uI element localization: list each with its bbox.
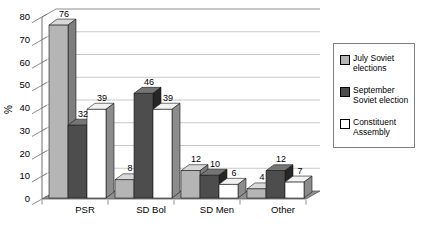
y-axis-tick-label: 50 xyxy=(19,79,30,90)
bar-september-other-front xyxy=(266,171,285,198)
bar-july-other-front xyxy=(247,189,266,198)
bar-july-sd-bol-front xyxy=(115,180,134,198)
category-label: PSR xyxy=(75,204,95,215)
category-label: SD Bol xyxy=(136,204,166,215)
value-label: 32 xyxy=(78,109,88,119)
value-label: 39 xyxy=(97,93,107,103)
bar-september-psr-front xyxy=(68,125,87,198)
legend-item-1: September Soviet election xyxy=(340,86,411,105)
y-axis-tick-label: 30 xyxy=(19,125,30,136)
bar-july-psr-front xyxy=(49,25,68,198)
value-label: 76 xyxy=(59,9,69,19)
legend-item-2: Constituent Assembly xyxy=(340,118,411,137)
y-axis-tick-label: 20 xyxy=(19,148,30,159)
bar-constituent-psr xyxy=(87,103,114,198)
category-label: Other xyxy=(271,204,295,215)
bar-constituent-sd-bol-front xyxy=(153,109,172,198)
legend-label: July Soviet elections xyxy=(353,54,394,73)
value-label: 12 xyxy=(191,154,201,164)
bar-constituent-psr-side xyxy=(106,103,114,198)
value-label: 6 xyxy=(231,168,236,178)
y-axis-tick-label: 60 xyxy=(19,57,30,68)
bar-constituent-sd-men-front xyxy=(219,184,238,198)
value-label: 8 xyxy=(127,163,132,173)
y-axis-tick-label: 40 xyxy=(19,102,30,113)
y-axis-tick-label: 10 xyxy=(19,170,30,181)
bar-september-sd-bol-front xyxy=(134,93,153,198)
bar-july-sd-men-front xyxy=(181,171,200,198)
y-axis-tick-label: 80 xyxy=(19,11,30,22)
value-label: 12 xyxy=(276,154,286,164)
legend-key-icon xyxy=(340,87,350,97)
y-axis-tick-label: 70 xyxy=(19,34,30,45)
value-label: 46 xyxy=(144,77,154,87)
bar-constituent-sd-bol xyxy=(153,103,180,198)
legend-key-icon xyxy=(340,55,350,65)
legend-label: Constituent Assembly xyxy=(353,118,396,137)
bar-constituent-sd-men xyxy=(219,178,246,198)
y-axis-tick xyxy=(32,196,47,205)
value-label: 39 xyxy=(163,93,173,103)
bar-september-sd-men-front xyxy=(200,175,219,198)
y-axis-title: % xyxy=(3,99,14,121)
legend-item-0: July Soviet elections xyxy=(340,54,411,73)
legend-box: July Soviet electionsSeptember Soviet el… xyxy=(333,43,415,148)
y-axis-tick-label: 0 xyxy=(25,193,30,204)
bar-constituent-other-front xyxy=(285,182,304,198)
value-label: 7 xyxy=(297,166,302,176)
legend-key-icon xyxy=(340,119,350,129)
bar-constituent-other xyxy=(285,176,312,198)
chart-page: { "chart_data": { "type": "bar", "style"… xyxy=(0,0,427,229)
category-label: SD Men xyxy=(200,204,234,215)
legend-label: September Soviet election xyxy=(353,86,408,105)
bar-constituent-sd-bol-side xyxy=(172,103,180,198)
bar-constituent-psr-front xyxy=(87,109,106,198)
value-label: 10 xyxy=(210,159,220,169)
value-label: 4 xyxy=(259,172,264,182)
